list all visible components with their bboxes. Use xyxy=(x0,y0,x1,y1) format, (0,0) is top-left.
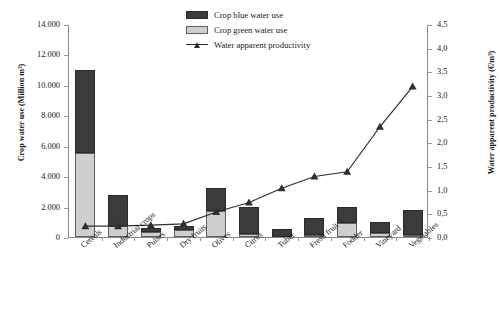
y-axis-right-tick-label: 2,0 xyxy=(437,138,447,147)
bar-segment-blue-water xyxy=(337,207,357,223)
y-axis-left-tick-label: 10.000 xyxy=(0,81,60,90)
y-axis-right-tick-label: 0,5 xyxy=(437,209,447,218)
productivity-marker xyxy=(310,172,318,179)
y-axis-right-tick-label: 4,5 xyxy=(437,20,447,29)
y-axis-left-tick-label: 14.000 xyxy=(0,20,60,29)
productivity-marker xyxy=(278,184,286,191)
y-axis-left-tick-label: 4.000 xyxy=(0,172,60,181)
y-axis-right-tick-mark xyxy=(428,25,432,26)
bar-segment-blue-water xyxy=(239,207,259,234)
productivity-line xyxy=(85,87,412,227)
x-axis-tick-mark xyxy=(364,237,365,241)
y-axis-right-tick-mark xyxy=(428,191,432,192)
y-axis-left-tick-label: 8.000 xyxy=(0,111,60,120)
productivity-marker xyxy=(376,123,384,130)
bar-segment-green-water xyxy=(75,153,95,237)
productivity-marker xyxy=(409,83,417,90)
y-axis-right-tick-mark xyxy=(428,120,432,121)
y-axis-right-tick-label: 1,0 xyxy=(437,186,447,195)
x-axis-tick-mark xyxy=(429,237,430,241)
y-axis-right-tick-label: 3,0 xyxy=(437,91,447,100)
productivity-marker xyxy=(343,168,351,175)
y-axis-right-tick-mark xyxy=(428,49,432,50)
y-axis-left-tick-label: 0 xyxy=(0,233,60,242)
legend-item-blue-water: Crop blue water use xyxy=(186,8,310,22)
x-axis-tick-mark xyxy=(200,237,201,241)
plot-area xyxy=(68,25,428,238)
y-axis-right-tick-mark xyxy=(428,143,432,144)
y-axis-right-tick-mark xyxy=(428,72,432,73)
y-axis-right-tick-mark xyxy=(428,214,432,215)
y-axis-right-tick-label: 1,5 xyxy=(437,162,447,171)
x-axis-tick-mark xyxy=(298,237,299,241)
y-axis-left-tick-label: 12.000 xyxy=(0,50,60,59)
y-axis-right-tick-mark xyxy=(428,167,432,168)
productivity-marker xyxy=(245,199,253,206)
y-axis-right-tick-label: 2,5 xyxy=(437,115,447,124)
x-axis-tick-mark xyxy=(233,237,234,241)
y-axis-right-tick-label: 4,0 xyxy=(437,44,447,53)
legend-label-blue-water: Crop blue water use xyxy=(214,10,283,20)
chart-figure: Crop blue water use Crop green water use… xyxy=(0,0,500,318)
bar-segment-blue-water xyxy=(75,70,95,154)
y-axis-left-tick-label: 2.000 xyxy=(0,203,60,212)
x-axis-tick-mark xyxy=(167,237,168,241)
bar-group xyxy=(206,188,226,237)
y-axis-left-tick-label: 6.000 xyxy=(0,142,60,151)
y-axis-right-title: Water apparent productivity (€/m³) xyxy=(487,28,496,198)
y-axis-right-tick-mark xyxy=(428,96,432,97)
x-axis-tick-mark xyxy=(265,237,266,241)
x-axis-tick-mark xyxy=(396,237,397,241)
x-axis-tick-mark xyxy=(102,237,103,241)
y-axis-right-tick-label: 3,5 xyxy=(437,67,447,76)
bar-group xyxy=(75,70,95,237)
y-axis-right-tick-label: 0,0 xyxy=(437,233,447,242)
y-axis-left-tick-mark xyxy=(64,238,68,239)
legend-swatch-blue-water-icon xyxy=(186,11,208,19)
bar-segment-blue-water xyxy=(206,188,226,211)
bar-segment-blue-water xyxy=(108,195,128,226)
x-axis-tick-mark xyxy=(331,237,332,241)
x-axis-tick-mark xyxy=(134,237,135,241)
